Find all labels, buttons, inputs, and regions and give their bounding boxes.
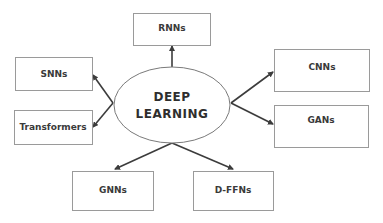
node-rnns: RNNs	[134, 14, 211, 46]
node-label-snns: SNNs	[41, 69, 68, 79]
node-dffns: D-FFNs	[194, 172, 274, 211]
edge-to-snns	[93, 75, 113, 103]
edge-to-cnns	[231, 72, 273, 103]
center-label-line1: DEEP	[153, 90, 190, 104]
node-snns: SNNs	[16, 58, 93, 91]
node-box-gans	[275, 106, 369, 148]
center-ellipse	[114, 67, 230, 143]
node-label-gnns: GNNs	[99, 185, 127, 195]
node-label-transformers: Transformers	[19, 122, 86, 132]
node-label-dffns: D-FFNs	[215, 185, 252, 195]
edge-to-gans	[231, 103, 273, 124]
node-gans: GANs	[275, 106, 369, 148]
edge-to-transformers	[93, 103, 113, 127]
node-label-cnns: CNNs	[308, 62, 335, 72]
edge-to-gnns	[115, 143, 172, 169]
node-gnns: GNNs	[73, 172, 154, 211]
node-transformers: Transformers	[15, 111, 93, 145]
deep-learning-diagram: DEEP LEARNING RNNs SNNs Transformers CNN…	[0, 0, 383, 223]
node-cnns: CNNs	[275, 50, 370, 92]
center-label-line2: LEARNING	[136, 107, 209, 121]
node-label-rnns: RNNs	[158, 23, 185, 33]
node-label-gans: GANs	[307, 115, 334, 125]
center-node-deep-learning: DEEP LEARNING	[114, 67, 230, 143]
edge-to-dffns	[172, 143, 233, 169]
